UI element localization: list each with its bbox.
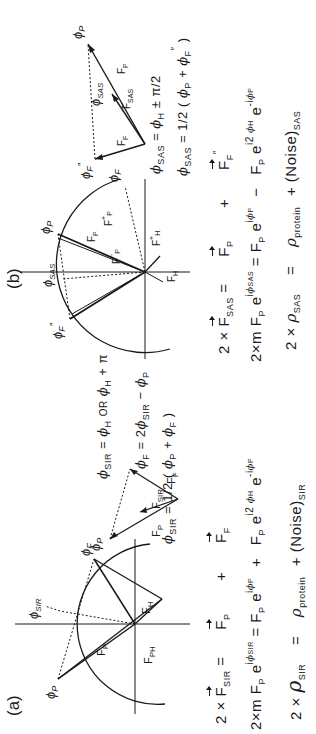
svg-text:FH: FH bbox=[166, 271, 179, 282]
equation-b-1: 2 × FSAS = FP + FF″ bbox=[212, 150, 235, 354]
label-phi-p-a: ϕP bbox=[43, 686, 60, 699]
circle-diagram-b: ϕF″ ϕSAS ϕP ϕF FP F+P F−P F+H FH bbox=[20, 169, 190, 359]
phase-equation-sir: ϕSIR = 1/2 ( ϕP + ϕF ) bbox=[160, 413, 178, 544]
figure: (a) ϕP ϕSIR ϕF FP FH FPH bbox=[0, 0, 316, 734]
svg-text:ϕP: ϕP bbox=[70, 26, 87, 39]
equation-b-3: 2 × ρSAS = ρprotein + (Noise)SAS bbox=[282, 111, 302, 350]
svg-text:ϕSIR: ϕSIR bbox=[26, 598, 43, 619]
phase-equation-sas: ϕSAS = 1/2 ( ϕP + ϕF″ ) bbox=[170, 37, 193, 176]
svg-text:FP: FP bbox=[86, 231, 99, 242]
equation-b-2: 2×m FP eiϕSAS = FP eiϕP − FP ei2 ϕH e-iϕ… bbox=[244, 88, 267, 362]
equation-a-3: 2 × ρSIR = ρprotein + (Noise)SIR bbox=[282, 484, 307, 720]
svg-text:ϕP: ϕP bbox=[38, 221, 55, 234]
equation-a-1: 2 × FSIR = FP + FF bbox=[212, 527, 232, 724]
svg-text:F+P: F+P bbox=[100, 211, 114, 226]
svg-text:FP: FP bbox=[95, 644, 110, 656]
svg-text:F+H: F+H bbox=[148, 231, 162, 246]
svg-text:FP: FP bbox=[116, 63, 129, 74]
vector-diagram-b: ϕF″ ϕSAS ϕP FF FSAS FP bbox=[70, 26, 145, 179]
relation-sir-1: ϕSIR = ϕH OR ϕH + π bbox=[95, 354, 113, 479]
svg-text:ϕP: ϕP bbox=[88, 538, 105, 551]
relation-sir-2: ϕF = 2ϕSIR − ϕP bbox=[133, 371, 151, 469]
svg-text:ϕF″: ϕF″ bbox=[48, 322, 67, 339]
equation-a-2: 2×m FP eiϕSIR = FP eiϕP + FP ei2 ϕH e-iϕ… bbox=[244, 458, 267, 730]
svg-text:FF: FF bbox=[116, 136, 129, 146]
svg-text:ϕSAS: ϕSAS bbox=[40, 263, 57, 287]
svg-text:ϕF″: ϕF″ bbox=[76, 162, 95, 179]
panel-label-b: (b) bbox=[4, 268, 24, 289]
svg-text:FPH: FPH bbox=[142, 646, 157, 664]
circle-diagram-a: ϕP ϕSIR ϕF FP FH FPH bbox=[15, 539, 190, 714]
relation-sas-1: ϕSAS = ϕH ± π/2 bbox=[148, 75, 166, 174]
svg-text:ϕF: ϕF bbox=[106, 169, 123, 182]
svg-text:FSAS: FSAS bbox=[121, 89, 134, 109]
svg-text:F−P: F−P bbox=[108, 249, 122, 264]
